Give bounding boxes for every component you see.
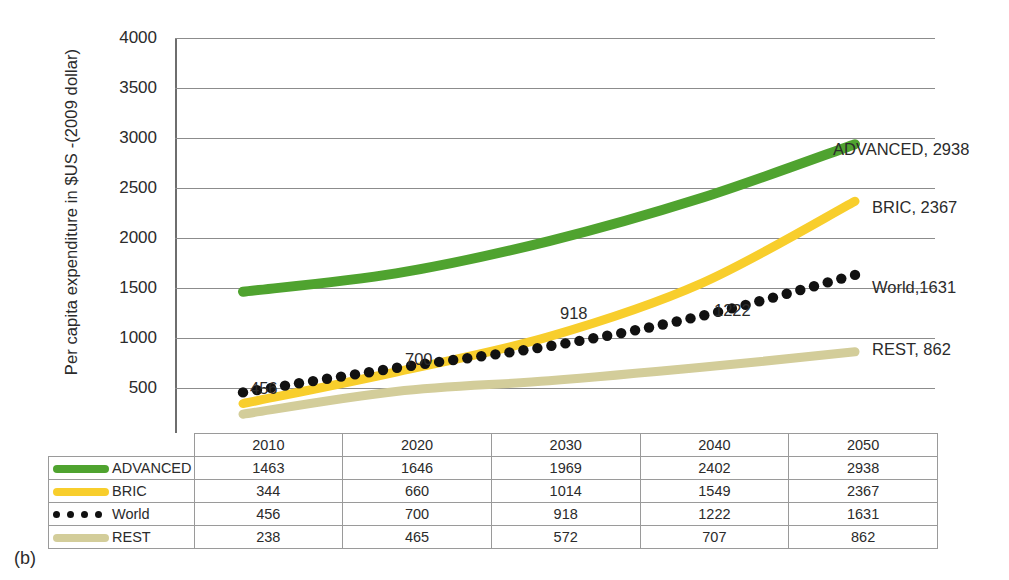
table-cell: 572 [491,526,640,549]
y-axis-title: Per capita expenditure in $US -(2009 dol… [62,42,86,382]
table-cell: 2938 [789,457,938,480]
table-cell: 1646 [343,457,492,480]
table-row-label: REST [112,530,151,546]
series-label-advanced: ADVANCED, 2938 [833,140,969,159]
data-table: 20102020203020402050ADVANCED146316461969… [48,433,938,549]
table-row-header-advanced: ADVANCED [49,457,195,480]
table-row: REST238465572707862 [49,526,938,549]
series-label-rest: REST, 862 [872,340,951,359]
point-label-world-2030: 918 [560,304,588,323]
gridline-3500 [175,88,935,89]
point-label-world-2040: 1222 [714,301,751,320]
table-header-row: 20102020203020402050 [49,434,938,457]
gridline-4000 [175,38,935,39]
gridline-500 [175,388,935,389]
table-row-label: World [112,507,150,523]
table-row-label: BRIC [112,484,147,500]
figure-panel-b: Per capita expenditure in $US -(2009 dol… [0,0,1009,580]
series-label-bric: BRIC, 2367 [872,198,957,217]
legend-dot [81,511,88,518]
gridline-1000 [175,338,935,339]
y-tick-4000: 4000 [87,28,157,48]
table-cell: 1549 [640,480,789,503]
point-label-world-2010: 456 [250,379,278,398]
table-cell: 1631 [789,503,938,526]
table-cell: 456 [194,503,343,526]
y-tick-500: 500 [87,378,157,398]
table-row-header-world: World [49,503,195,526]
table-row-label: ADVANCED [112,461,192,477]
table-cell: 1014 [491,480,640,503]
table-cell: 1463 [194,457,343,480]
table-cell: 238 [194,526,343,549]
table-cell: 1222 [640,503,789,526]
table-column-header-2010: 2010 [194,434,343,457]
table-cell: 2367 [789,480,938,503]
table-column-header-2050: 2050 [789,434,938,457]
table-cell: 660 [343,480,492,503]
yellow-line-swatch [53,488,109,496]
table-row-header-rest: REST [49,526,195,549]
table-column-header-2020: 2020 [343,434,492,457]
table-cell: 700 [343,503,492,526]
tan-line-swatch [53,534,109,542]
series-label-world: World,1631 [872,278,956,297]
y-tick-1500: 1500 [87,278,157,298]
y-tick-3500: 3500 [87,78,157,98]
y-tick-2000: 2000 [87,228,157,248]
table-cell: 465 [343,526,492,549]
gridline-2000 [175,238,935,239]
legend-dot [53,511,60,518]
table-row: BRIC344660101415492367 [49,480,938,503]
y-tick-3000: 3000 [87,128,157,148]
plot-area: 4000 3500 3000 2500 2000 1500 1000 500 - [175,38,935,438]
y-tick-1000: 1000 [87,328,157,348]
table-row-header-bric: BRIC [49,480,195,503]
green-line-swatch [53,465,109,473]
y-tick-2500: 2500 [87,178,157,198]
gridline-3000 [175,138,935,139]
figure-caption: (b) [14,548,36,569]
table-column-header-2040: 2040 [640,434,789,457]
legend-dot [67,511,74,518]
point-label-world-2020: 700 [405,350,433,369]
gridline-1500 [175,288,935,289]
table-corner-cell [49,434,195,457]
legend-dot [95,511,102,518]
table-cell: 707 [640,526,789,549]
table-cell: 2402 [640,457,789,480]
table-cell: 1969 [491,457,640,480]
gridline-2500 [175,188,935,189]
table-row: ADVANCED14631646196924022938 [49,457,938,480]
table-cell: 862 [789,526,938,549]
table-cell: 344 [194,480,343,503]
table-cell: 918 [491,503,640,526]
table-column-header-2030: 2030 [491,434,640,457]
black-dots-swatch [53,511,109,519]
table-row: World45670091812221631 [49,503,938,526]
